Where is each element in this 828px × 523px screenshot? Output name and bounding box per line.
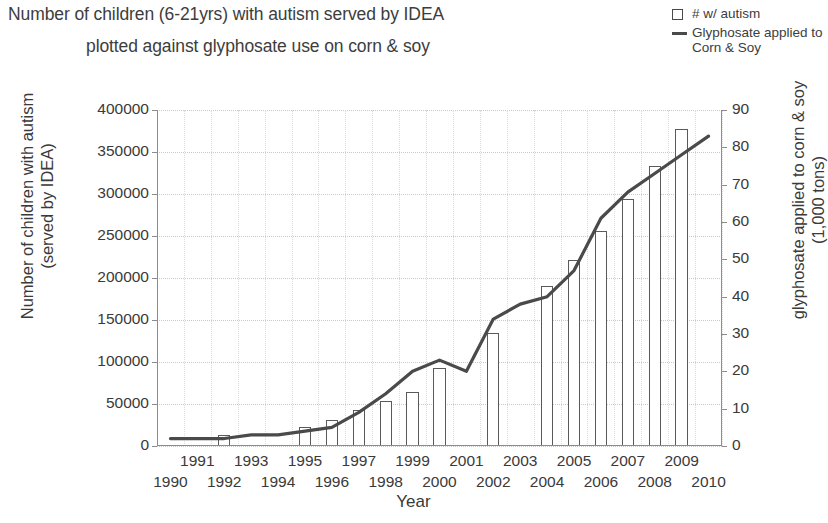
x-axis-tick-2008: 2008 [632,473,678,491]
x-axis-tick-2002: 2002 [470,473,516,491]
x-axis-tick-1999: 1999 [390,452,436,470]
y-axis-right-tick: 20 [732,361,772,379]
legend-open-square-icon [672,6,692,20]
y-axis-right-tickmark [722,297,727,298]
x-axis-tick-2001: 2001 [443,452,489,470]
x-axis-tick-1998: 1998 [363,473,409,491]
y-axis-left-tick: 300000 [53,184,149,202]
y-axis-right-line [721,110,722,446]
y-axis-right-title: glyphosate applied to corn & soy (1,000 … [788,70,828,330]
gridline-horizontal [157,446,722,447]
y-axis-right-tick: 40 [732,287,772,305]
x-axis-tick-1992: 1992 [201,473,247,491]
y-axis-right-tickmark [722,259,727,260]
y-axis-left-tick: 100000 [53,352,149,370]
y-axis-left-tick: 150000 [53,310,149,328]
y-axis-right-tickmark [722,147,727,148]
x-axis-tick-2010: 2010 [686,473,732,491]
y-axis-right-tick: 0 [732,436,772,454]
chart-title-line-1: Number of children (6-21yrs) with autism… [8,4,444,25]
line-series [157,110,722,446]
y-axis-left-title: Number of children with autism (served b… [17,81,57,331]
legend-label-autism: # w/ autism [692,6,760,22]
y-axis-left-tick: 400000 [53,100,149,118]
y-axis-left-tickmark [152,194,157,195]
y-axis-left-tick: 250000 [53,226,149,244]
y-axis-right-tick: 90 [732,100,772,118]
x-axis-tick-2009: 2009 [659,452,705,470]
x-axis-tick-2000: 2000 [417,473,463,491]
x-axis-tick-1991: 1991 [174,452,220,470]
x-axis-line [157,445,722,446]
y-axis-right-tick: 70 [732,175,772,193]
x-axis-tick-2007: 2007 [605,452,651,470]
y-axis-left-tickmark [152,362,157,363]
x-axis-title: Year [0,492,827,512]
chart-title-line-2: plotted against glyphosate use on corn &… [86,36,430,57]
y-axis-right-tick: 60 [732,212,772,230]
y-axis-right-tick: 50 [732,249,772,267]
plot-area [157,110,722,446]
y-axis-left-tick: 200000 [53,268,149,286]
x-axis-tick-1994: 1994 [255,473,301,491]
legend-label-glyphosate: Glyphosate applied to Corn & Soy [692,25,823,56]
y-axis-left-tick: 0 [53,436,149,454]
y-axis-left-tick: 50000 [53,394,149,412]
y-axis-left-tickmark [152,152,157,153]
x-axis-tick-2004: 2004 [524,473,570,491]
x-axis-tick-2003: 2003 [497,452,543,470]
chart-legend: # w/ autism Glyphosate applied to Corn &… [672,6,827,59]
x-axis-tick-1993: 1993 [228,452,274,470]
y-axis-right-tickmark [722,110,727,111]
y-axis-left-tickmark [152,236,157,237]
y-axis-right-tickmark [722,334,727,335]
y-axis-left-tick: 350000 [53,142,149,160]
x-axis-tick-1996: 1996 [309,473,355,491]
legend-item-autism: # w/ autism [672,6,827,22]
gridline-vertical [722,110,723,446]
y-axis-left-tickmark [152,404,157,405]
x-axis-tick-2006: 2006 [578,473,624,491]
y-axis-left-tickmark [152,110,157,111]
y-axis-right-tickmark [722,185,727,186]
x-axis-tick-2005: 2005 [551,452,597,470]
legend-line-icon [672,25,692,36]
y-axis-left-tickmark [152,278,157,279]
y-axis-left-line [157,110,158,446]
y-axis-left-tickmark [152,320,157,321]
legend-item-glyphosate: Glyphosate applied to Corn & Soy [672,25,827,56]
y-axis-left-tickmark [152,446,157,447]
x-axis-tick-1990: 1990 [147,473,193,491]
y-axis-right-tickmark [722,409,727,410]
y-axis-right-tick: 30 [732,324,772,342]
y-axis-right-tick: 80 [732,137,772,155]
y-axis-right-tickmark [722,371,727,372]
y-axis-right-tickmark [722,222,727,223]
y-axis-right-tick: 10 [732,399,772,417]
y-axis-right-tickmark [722,446,727,447]
x-axis-tick-1997: 1997 [336,452,382,470]
x-axis-tick-1995: 1995 [282,452,328,470]
glyphosate-line-path [170,136,708,438]
